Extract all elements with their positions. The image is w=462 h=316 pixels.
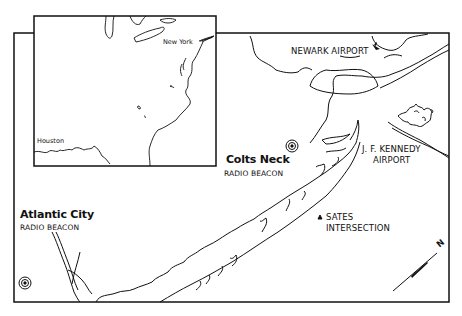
label-sates-line1: SATES bbox=[326, 213, 353, 222]
inset-label-houston: Houston bbox=[37, 138, 64, 145]
radio-beacon-icon bbox=[19, 277, 31, 289]
label-jfk-line1: J. F. KENNEDY bbox=[362, 145, 420, 154]
radio-beacon-icon bbox=[286, 140, 298, 152]
label-colts-neck-type: RADIO BEACON bbox=[224, 170, 283, 178]
inset-label-new-york: New York bbox=[163, 39, 193, 46]
triangle-icon bbox=[318, 215, 322, 219]
label-jfk-line2: AIRPORT bbox=[373, 156, 410, 165]
label-atlantic-city: Atlantic City bbox=[20, 209, 94, 220]
label-atlantic-city-type: RADIO BEACON bbox=[20, 224, 79, 232]
label-colts-neck: Colts Neck bbox=[226, 154, 290, 165]
label-sates-line2: INTERSECTION bbox=[326, 224, 390, 233]
north-arrow-icon bbox=[393, 253, 437, 291]
label-newark-airport: NEWARK AIRPORT bbox=[291, 47, 369, 56]
